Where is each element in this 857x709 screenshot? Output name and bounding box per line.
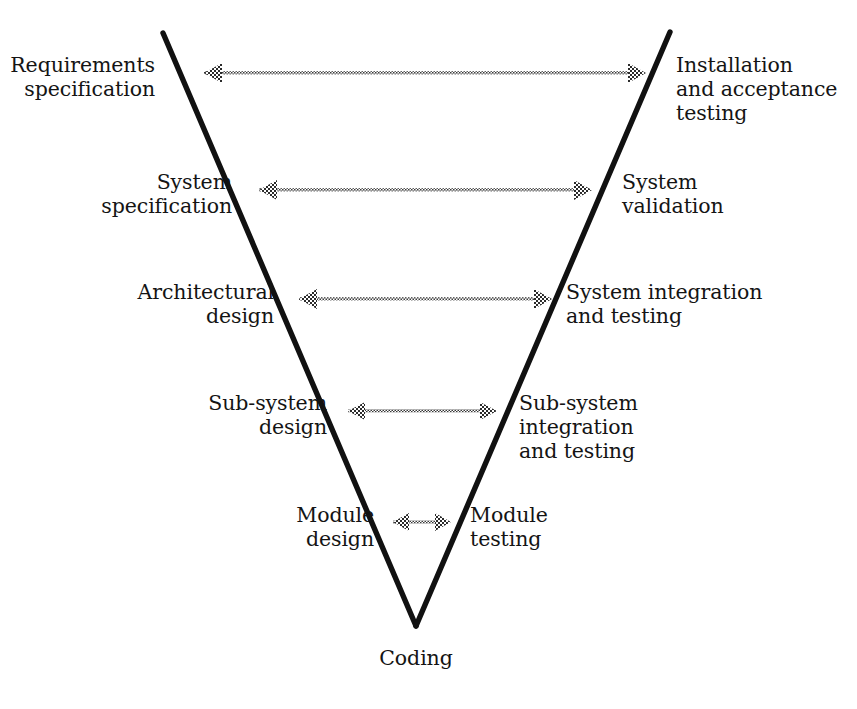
stage-label-sub-system-integration-and-testing: Sub-system integration and testing (519, 392, 719, 463)
stage-label-system-validation: System validation (622, 171, 822, 219)
arrow-row-4 (348, 402, 497, 420)
stage-label-installation-and-acceptance-testing: Installation and acceptance testing (676, 54, 857, 125)
stage-label-sub-system-design: Sub-system design (97, 392, 327, 440)
stage-label-requirements-specification: Requirements specification (0, 54, 155, 102)
arrow-row-5 (393, 513, 451, 531)
stage-label-system-specification: System specification (12, 171, 232, 219)
arrow-row-2 (259, 180, 592, 200)
arrow-row-3 (299, 289, 552, 309)
stage-label-architectural-design: Architectural design (44, 281, 274, 329)
stage-label-module-testing: Module testing (470, 504, 650, 552)
v-model-diagram: Requirements specification System specif… (0, 0, 857, 709)
stage-label-module-design: Module design (164, 504, 374, 552)
stage-label-system-integration-and-testing: System integration and testing (566, 281, 811, 329)
stage-label-coding: Coding (316, 647, 516, 671)
arrow-row-1 (204, 63, 646, 83)
